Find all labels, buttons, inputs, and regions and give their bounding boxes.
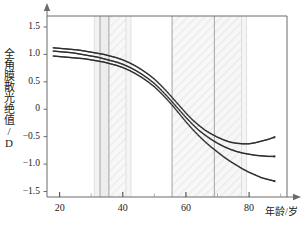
data-point-endpoint <box>273 136 275 138</box>
shaded-band-hatch <box>109 16 126 197</box>
data-point-endpoint <box>273 180 275 182</box>
x-tick-label: 20 <box>47 202 73 213</box>
y-tick-label: 1.0 <box>14 48 40 58</box>
y-tick-label: −1.5 <box>14 186 40 196</box>
y-tick-label: −1.0 <box>14 158 40 168</box>
shaded-band <box>126 16 131 197</box>
y-tick-label: −0.5 <box>14 131 40 141</box>
y-tick-label: 1.5 <box>14 21 40 31</box>
shaded-band-hatch <box>214 16 241 197</box>
shaded-band <box>100 16 109 197</box>
x-tick-label: 80 <box>236 202 262 213</box>
shaded-band <box>94 16 100 197</box>
data-point-endpoint <box>273 155 275 157</box>
shaded-band-hatch <box>172 16 214 197</box>
x-axis-arrow <box>293 194 301 200</box>
y-tick-label: 0.5 <box>14 76 40 86</box>
x-axis-label: 年龄/岁 <box>265 203 298 218</box>
y-tick-label: 0 <box>14 103 40 113</box>
x-tick-label: 40 <box>110 202 136 213</box>
shaded-band-group <box>94 16 246 197</box>
plot-canvas <box>0 0 305 232</box>
y-axis-arrow <box>44 3 50 11</box>
chart-figure: 全角膜散光绝值/D 1.51.00.50−0.5−1.0−1.5 2040608… <box>0 0 305 232</box>
x-tick-label: 60 <box>173 202 199 213</box>
